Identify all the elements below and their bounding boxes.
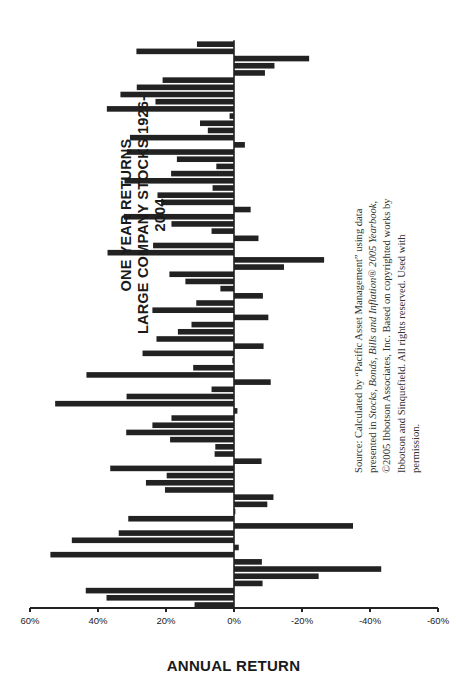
y-axis-label: ANNUAL RETURN [159,657,309,674]
bar-1984 [213,185,234,191]
bar-1943 [146,480,234,486]
bar-1941 [234,494,273,500]
y-tick-label: -40% [350,615,390,627]
source-note: Source: Calculated by “Pacific Asset Man… [352,183,423,473]
bar-1959 [193,365,234,371]
bar-1965 [192,322,235,328]
bar-1982 [161,200,234,206]
bar-1973 [234,264,284,270]
bar-1945 [110,466,234,472]
bar-1972 [169,271,234,277]
bar-1927 [107,595,235,601]
bar-1949 [170,437,234,443]
bar-1944 [167,473,234,479]
bar-1966 [234,315,268,321]
bar-2000 [234,70,265,76]
bar-1953 [234,408,237,414]
bar-1964 [178,329,234,335]
bar-1928 [86,588,234,594]
bar-1926 [195,602,234,608]
bar-1971 [185,279,234,285]
bar-1938 [128,516,234,522]
bar-1958 [86,372,234,378]
bar-2002 [234,56,309,62]
bar-1978 [212,228,234,234]
bar-1955 [127,394,234,400]
bar-1936 [119,530,234,536]
bar-1969 [234,293,263,299]
bar-1970 [220,286,234,292]
bar-1998 [137,85,234,91]
rotated-chart-frame: ONE YEAR RETURNS LARGE COMPANY STOCKS 19… [0,0,456,695]
bar-1974 [234,257,324,263]
bar-1979 [171,221,234,227]
bar-1999 [163,77,234,83]
bar-1992 [208,128,234,134]
bar-1948 [215,444,234,450]
bar-1929 [234,581,263,587]
bar-1988 [177,156,234,162]
chart-title: ONE YEAR RETURNS [118,95,135,335]
bar-1934 [234,545,239,551]
bar-1932 [234,559,262,565]
bar-1968 [196,300,234,306]
bar-1986 [171,171,234,177]
bar-1994 [230,113,234,119]
y-tick-label: 60% [10,615,50,627]
bar-2003 [136,49,234,55]
bar-1930 [234,573,319,579]
bar-1939 [234,509,235,515]
bar-1954 [55,401,234,407]
y-tick-label: -20% [282,615,322,627]
y-tick-label: 20% [146,615,186,627]
bar-1947 [215,451,234,457]
bar-1951 [152,422,234,428]
y-tick-label: -60% [418,615,456,627]
bar-1961 [143,351,234,357]
bar-2001 [234,63,274,69]
source-title: Stocks, Bonds, Bills and Inflation® 2005… [367,203,378,418]
bar-1952 [171,415,234,421]
bar-1950 [126,430,234,436]
bar-1990 [234,142,245,148]
bar-1935 [72,537,234,543]
bar-1937 [234,523,353,529]
bar-1960 [232,358,234,364]
bar-1981 [234,207,251,213]
bar-1957 [234,379,271,385]
bar-1962 [234,343,264,349]
bar-2004 [197,41,234,47]
bar-1956 [212,387,234,393]
bar-1963 [156,336,234,342]
bar-1993 [200,120,234,126]
bar-1931 [234,566,381,572]
bar-1987 [216,164,234,170]
y-tick-label: 0% [214,615,254,627]
chart-subtitle: LARGE COMPANY STOCKS 1926-2004 [135,95,169,335]
bar-1946 [234,458,262,464]
y-tick-label: 40% [78,615,118,627]
chart-title-block: ONE YEAR RETURNS LARGE COMPANY STOCKS 19… [118,95,169,335]
bar-1977 [234,236,258,242]
bar-1933 [50,552,234,558]
bar-1942 [165,487,234,493]
bar-1940 [234,502,267,508]
